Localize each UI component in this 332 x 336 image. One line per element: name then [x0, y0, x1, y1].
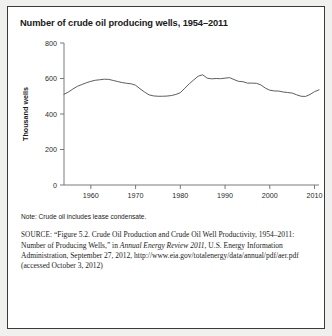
x-axis-tick-label: 1960	[83, 191, 99, 200]
x-axis-tick-label: 2010	[307, 191, 323, 200]
x-axis-tick-label: 1970	[128, 191, 144, 200]
y-axis-tick-label: 800	[45, 39, 57, 48]
x-axis-tick-label: 1990	[217, 191, 233, 200]
page-title: Number of crude oil producing wells, 195…	[20, 18, 315, 28]
chart-plot-area: 0200400600800196019701980199020002010Tho…	[18, 35, 329, 207]
y-axis-tick-label: 200	[45, 145, 57, 154]
chart-note: Note: Crude oil includes lease condensat…	[21, 213, 315, 221]
source-publication-title: Annual Energy Review 2011	[120, 241, 205, 250]
x-axis-tick-label: 2000	[262, 191, 278, 200]
data-series-line	[64, 75, 319, 97]
figure-frame: Number of crude oil producing wells, 195…	[7, 6, 325, 329]
y-axis-tick-label: 0	[53, 181, 57, 190]
y-axis-tick-label: 400	[45, 110, 57, 119]
figure-page: Number of crude oil producing wells, 195…	[0, 0, 332, 336]
y-axis-title: Thousand wells	[21, 87, 30, 141]
x-axis-tick-label: 1980	[172, 191, 188, 200]
line-chart: 0200400600800196019701980199020002010Tho…	[18, 35, 329, 207]
y-axis-tick-label: 600	[45, 74, 57, 83]
source-citation: SOURCE: “Figure 5.2. Crude Oil Productio…	[21, 230, 313, 270]
source-label: SOURCE:	[21, 231, 52, 239]
